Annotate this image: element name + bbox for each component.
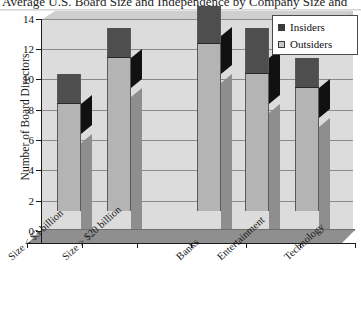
bar-front-face <box>295 58 319 88</box>
y-tick-14 <box>36 19 41 20</box>
y-tick-12 <box>36 49 41 50</box>
bar-side-face <box>81 134 92 240</box>
bar-front-face <box>107 58 131 211</box>
y-tick-2 <box>36 201 41 202</box>
y-axis-line <box>41 19 42 244</box>
y-tick-6 <box>36 140 41 141</box>
bar-segment-divider <box>245 73 269 74</box>
bar-front-face <box>197 44 221 211</box>
bar-chart: 14 12 10 8 6 4 2 0 Number of Board Direc… <box>0 11 361 329</box>
y-tick-10 <box>36 79 41 80</box>
square-swatch-icon <box>278 41 285 48</box>
bar-size-gt-20-billion <box>107 11 142 231</box>
bar-front-face <box>197 6 221 44</box>
bar-front-face <box>245 74 269 211</box>
x-tick-2 <box>137 243 138 248</box>
bar-segment-divider <box>197 43 221 44</box>
legend-item-insiders: Insiders <box>278 19 357 36</box>
bar-side-face <box>269 49 280 104</box>
bar-segment-divider <box>295 87 319 88</box>
bar-segment-divider <box>57 103 81 104</box>
bar-side-face <box>319 118 330 240</box>
bar-side-face <box>131 49 142 88</box>
bar-segment-divider <box>107 57 131 58</box>
bar-side-face <box>221 74 232 240</box>
legend-label-insiders: Insiders <box>290 22 325 33</box>
x-tick-4 <box>246 243 247 248</box>
y-tick-8 <box>36 110 41 111</box>
legend-item-outsiders: Outsiders <box>278 36 357 53</box>
bar-front-face <box>57 104 81 211</box>
chart-legend: Insiders Outsiders <box>272 15 358 55</box>
bar-front-face <box>245 28 269 74</box>
square-swatch-icon <box>278 24 285 31</box>
bar-side-face <box>131 88 142 240</box>
bar-front-face <box>107 28 131 58</box>
bar-banks <box>197 11 232 231</box>
y-tick-4 <box>36 170 41 171</box>
bar-side-face <box>319 79 330 118</box>
bar-side-face <box>81 95 92 134</box>
y-axis-title: Number of Board Directors <box>19 17 31 217</box>
bar-front-face <box>57 74 81 104</box>
bar-side-face <box>269 104 280 240</box>
bar-side-face <box>221 27 232 74</box>
x-tick-6 <box>355 243 356 248</box>
bar-size-lt-3-billion <box>57 11 92 231</box>
legend-label-outsiders: Outsiders <box>290 39 332 50</box>
bar-front-face <box>295 88 319 211</box>
